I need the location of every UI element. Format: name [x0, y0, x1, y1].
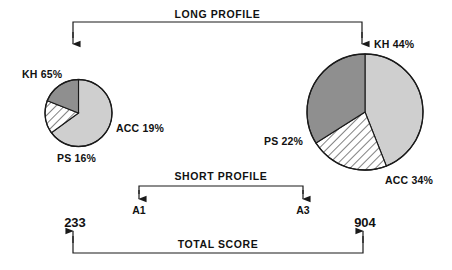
profile-score-diagram: LONG PROFILE KH 65% PS 16% ACC 19% KH 44…	[0, 0, 452, 270]
figure-container: LONG PROFILE KH 65% PS 16% ACC 19% KH 44…	[0, 0, 452, 270]
total-score-bracket: TOTAL SCORE 233 904	[64, 215, 376, 253]
right-pie-label-ps: PS 22%	[264, 135, 304, 147]
node-label-a3: A3	[296, 204, 310, 216]
short-profile-bracket-line	[139, 186, 303, 194]
long-profile-label: LONG PROFILE	[175, 8, 261, 20]
long-profile-bracket-line	[73, 22, 362, 38]
right-pie-chart: KH 44% PS 22% ACC 34%	[264, 38, 434, 186]
right-pie-label-kh: KH 44%	[374, 38, 415, 50]
node-label-a1: A1	[132, 204, 146, 216]
long-profile-bracket: LONG PROFILE	[73, 8, 362, 44]
left-pie-chart: KH 65% PS 16% ACC 19%	[22, 68, 165, 164]
left-pie-label-acc: ACC 19%	[116, 122, 165, 134]
left-pie-label-kh: KH 65%	[22, 68, 63, 80]
short-profile-bracket: SHORT PROFILE A1 A3	[132, 170, 310, 216]
right-pie-label-acc: ACC 34%	[385, 174, 434, 186]
short-profile-label: SHORT PROFILE	[175, 170, 268, 182]
total-score-label: TOTAL SCORE	[178, 238, 259, 250]
total-score-value-left: 233	[64, 215, 86, 230]
total-score-value-right: 904	[354, 215, 376, 230]
left-pie-label-ps: PS 16%	[57, 152, 97, 164]
